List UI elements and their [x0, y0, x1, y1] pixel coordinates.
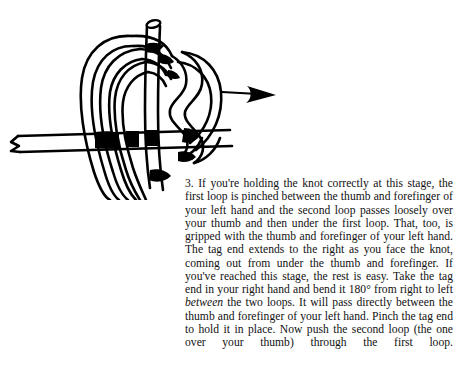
paragraph-emphasis-between: between — [185, 296, 223, 309]
direction-arrow — [222, 86, 276, 103]
standing-rope-cut-end-left — [11, 136, 20, 152]
shadow-wedge-lower-right — [178, 151, 196, 162]
paragraph-part-1: 3. If you're holding the knot correctly … — [185, 177, 453, 296]
document-page: 3. If you're holding the knot correctly … — [0, 0, 460, 380]
instruction-text-block: 3. If you're holding the knot correctly … — [185, 177, 453, 363]
paragraph-part-2: the two loops. It will pass directly bet… — [185, 296, 453, 349]
knot-illustration-svg — [0, 0, 290, 200]
step-3-paragraph: 3. If you're holding the knot correctly … — [185, 177, 453, 363]
knot-illustration — [0, 0, 290, 200]
shadow-wedge-lower-center — [149, 169, 171, 181]
shadow-wedge-mid-band — [126, 131, 139, 147]
shadow-wedge-top-center — [146, 43, 164, 53]
vertical-rope-right-edge — [158, 26, 163, 190]
shadow-wedge-center-band-left — [146, 130, 159, 146]
shadow-wedge-left-band — [95, 131, 119, 148]
knot-rope-outlines — [11, 19, 232, 200]
